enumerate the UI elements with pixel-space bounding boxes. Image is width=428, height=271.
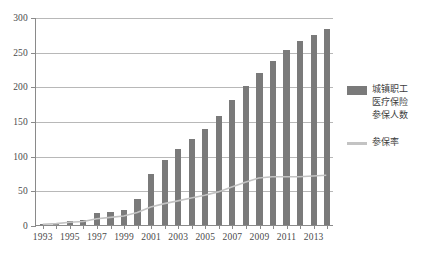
x-axis-tick [111,225,112,229]
x-axis-label: 2005 [195,232,215,242]
legend-swatch-bar-icon [347,86,367,95]
y-axis-label: 100 [13,152,28,162]
y-axis-label: 0 [23,221,28,231]
legend-item-bar: 城镇职工 医疗保险 参保人数 [347,83,427,122]
legend-item-line: 参保率 [347,136,427,149]
legend-label-bar: 城镇职工 医疗保险 参保人数 [372,83,408,122]
x-axis-label: 1995 [60,232,80,242]
x-axis-tick [287,225,288,229]
x-axis-tick [56,225,57,229]
x-axis-tick [205,225,206,229]
x-axis-tick [327,225,328,229]
x-axis-tick [165,225,166,229]
x-axis-label: 1999 [114,232,134,242]
x-axis-label: 1997 [87,232,107,242]
x-axis-label: 1993 [33,232,53,242]
x-axis-tick [314,225,315,229]
y-axis-label: 150 [13,117,28,127]
chart-container: 050100150200250300 199319951997199920012… [0,0,428,271]
y-axis-label: 50 [18,186,28,196]
legend-label-line: 参保率 [372,136,399,149]
x-axis-tick [260,225,261,229]
x-axis-tick [300,225,301,229]
x-axis-tick [192,225,193,229]
x-axis-label: 2009 [250,232,270,242]
plot-area: 050100150200250300 199319951997199920012… [35,18,333,226]
x-axis-tick [178,225,179,229]
y-axis-label: 250 [13,48,28,58]
x-axis-label: 2003 [168,232,188,242]
line-path [43,175,327,224]
y-axis-label: 300 [13,13,28,23]
x-axis-tick [219,225,220,229]
x-axis-label: 2013 [304,232,324,242]
x-axis-tick [273,225,274,229]
x-axis-tick [151,225,152,229]
x-axis-label: 2007 [223,232,243,242]
x-axis-tick [232,225,233,229]
x-axis-tick [138,225,139,229]
x-axis-tick [97,225,98,229]
chart-legend: 城镇职工 医疗保险 参保人数 参保率 [347,83,427,163]
x-axis-tick [43,225,44,229]
x-axis-tick [246,225,247,229]
x-axis-label: 2011 [277,232,296,242]
x-axis-label: 2001 [141,232,161,242]
x-axis-tick [83,225,84,229]
x-axis-tick [70,225,71,229]
line-series-参保率 [36,18,333,225]
x-axis-tick [124,225,125,229]
y-axis-tick [31,226,36,227]
y-axis-label: 200 [13,82,28,92]
legend-swatch-line-icon [347,142,367,145]
